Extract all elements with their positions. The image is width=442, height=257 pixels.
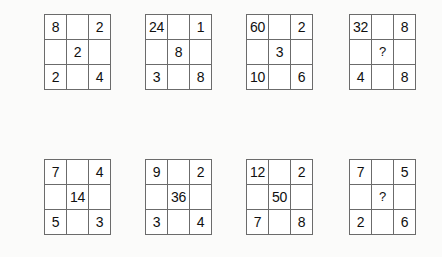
grid-cell-value: 6 (291, 65, 313, 90)
grid-cell-empty (291, 40, 313, 65)
grid-cell-value: 8 (394, 15, 416, 40)
grid-cell-value: 3 (146, 210, 168, 235)
grid-cell-value: 10 (247, 65, 269, 90)
grid-cell-value: 4 (190, 210, 212, 235)
grid-cell-empty (67, 65, 89, 90)
grid-cell-empty (394, 40, 416, 65)
grid-cell-value: 3 (146, 65, 168, 90)
grid-cell-value: 9 (146, 160, 168, 185)
grid-cell-value: 3 (269, 40, 291, 65)
grid-cell-empty (269, 15, 291, 40)
grid-cell-empty (168, 15, 190, 40)
puzzle-sheet: 82224 241838 6023106 328?48 741453 92363… (0, 0, 442, 257)
grid-cell-value: 6 (394, 210, 416, 235)
grid-cell-empty (89, 40, 111, 65)
grid-cell-value: 50 (269, 185, 291, 210)
grid-cell-empty (269, 210, 291, 235)
grid-cell-unknown: ? (372, 185, 394, 210)
number-grid-7: 1225078 (246, 159, 313, 235)
grid-cell-value: 2 (67, 40, 89, 65)
puzzle-row-top: 82224 241838 6023106 328?48 (0, 14, 442, 89)
grid-cell-value: 5 (394, 160, 416, 185)
grid-cell-value: 60 (247, 15, 269, 40)
grid-cell-value: 2 (45, 65, 67, 90)
number-grid-1: 82224 (44, 14, 111, 90)
grid-cell-value: 7 (45, 160, 67, 185)
grid-cell-empty (394, 185, 416, 210)
grid-cell-empty (45, 185, 67, 210)
grid-cell-empty (247, 185, 269, 210)
number-grid-3: 6023106 (246, 14, 313, 90)
grid-cell-value: 5 (45, 210, 67, 235)
grid-cell-empty (67, 210, 89, 235)
grid-cell-unknown: ? (372, 40, 394, 65)
grid-cell-value: 14 (67, 185, 89, 210)
grid-cell-value: 8 (190, 65, 212, 90)
grid-cell-empty (269, 65, 291, 90)
grid-cell-empty (146, 40, 168, 65)
grid-cell-value: 2 (89, 15, 111, 40)
grid-cell-value: 2 (291, 15, 313, 40)
grid-cell-value: 2 (350, 210, 372, 235)
grid-cell-value: 8 (168, 40, 190, 65)
grid-cell-empty (372, 65, 394, 90)
grid-cell-empty (269, 160, 291, 185)
grid-cell-value: 32 (350, 15, 372, 40)
grid-cell-value: 8 (291, 210, 313, 235)
grid-cell-empty (146, 185, 168, 210)
grid-cell-value: 4 (89, 65, 111, 90)
grid-cell-empty (190, 40, 212, 65)
grid-cell-empty (350, 185, 372, 210)
grid-cell-empty (168, 160, 190, 185)
grid-cell-empty (67, 15, 89, 40)
grid-cell-value: 12 (247, 160, 269, 185)
grid-cell-value: 1 (190, 15, 212, 40)
grid-cell-value: 4 (350, 65, 372, 90)
grid-cell-empty (45, 40, 67, 65)
grid-cell-value: 2 (190, 160, 212, 185)
puzzle-row-bottom: 741453 923634 1225078 75?26 (0, 159, 442, 234)
grid-cell-empty (247, 40, 269, 65)
grid-cell-value: 24 (146, 15, 168, 40)
grid-cell-empty (168, 210, 190, 235)
grid-cell-value: 3 (89, 210, 111, 235)
grid-cell-value: 2 (291, 160, 313, 185)
grid-cell-value: 4 (89, 160, 111, 185)
number-grid-8: 75?26 (349, 159, 416, 235)
number-grid-5: 741453 (44, 159, 111, 235)
grid-cell-empty (291, 185, 313, 210)
grid-cell-empty (190, 185, 212, 210)
grid-cell-empty (372, 15, 394, 40)
grid-cell-empty (67, 160, 89, 185)
number-grid-6: 923634 (145, 159, 212, 235)
grid-cell-value: 7 (247, 210, 269, 235)
number-grid-2: 241838 (145, 14, 212, 90)
grid-cell-value: 36 (168, 185, 190, 210)
grid-cell-empty (372, 210, 394, 235)
grid-cell-empty (372, 160, 394, 185)
grid-cell-value: 8 (45, 15, 67, 40)
number-grid-4: 328?48 (349, 14, 416, 90)
grid-cell-empty (350, 40, 372, 65)
grid-cell-empty (89, 185, 111, 210)
grid-cell-empty (168, 65, 190, 90)
grid-cell-value: 7 (350, 160, 372, 185)
grid-cell-value: 8 (394, 65, 416, 90)
